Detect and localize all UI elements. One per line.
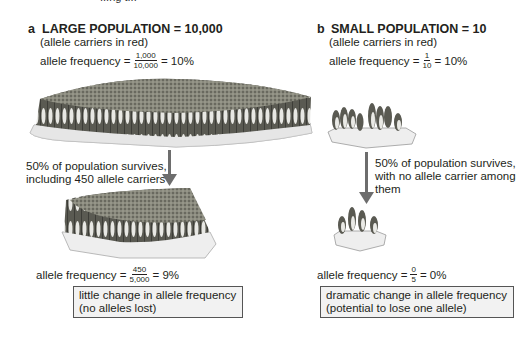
panel-a-letter: a: [28, 22, 42, 36]
denominator: 10: [422, 61, 431, 70]
panel-a-title: aLARGE POPULATION = 10,000: [28, 22, 223, 36]
penguin-group-small-illustration: [326, 100, 418, 150]
numerator: 0: [410, 265, 416, 275]
panel-a-heading: LARGE POPULATION = 10,000: [42, 22, 223, 36]
fraction: 1 10: [422, 51, 431, 70]
panel-b-final-frequency: allele frequency = 0 5 = 0%: [317, 265, 446, 284]
freq-label: allele frequency =: [317, 269, 407, 281]
survival-note-line: with no allele carrier among: [375, 170, 516, 183]
numerator: 1: [424, 51, 430, 61]
panel-a-final-frequency: allele frequency = 450 5,000 = 9%: [36, 265, 179, 284]
panel-a-conclusion-box: little change in allele frequency (no al…: [73, 286, 243, 318]
panel-b-letter: b: [317, 22, 331, 36]
penguin-colony-half-illustration: [60, 188, 220, 260]
panel-b-conclusion-box: dramatic change in allele frequency (pot…: [320, 286, 514, 318]
freq-result: = 0%: [420, 269, 447, 281]
fraction: 450 5,000: [129, 265, 149, 284]
penguin-group-tiny-illustration: [332, 205, 388, 253]
survival-note-line: 50% of population survives,: [375, 157, 516, 170]
survival-note-line: including 450 allele carriers: [26, 173, 167, 186]
conclusion-line: (potential to lose one allele): [326, 302, 507, 315]
fraction: 1,000 10,000: [133, 51, 157, 70]
denominator: 10,000: [133, 61, 157, 70]
freq-label: allele frequency =: [40, 55, 130, 67]
survival-note-line: 50% of population survives,: [26, 160, 167, 173]
denominator: 5,000: [129, 275, 149, 284]
conclusion-line: (no alleles lost): [79, 302, 236, 315]
arrow-down-icon: [357, 152, 377, 208]
conclusion-line: little change in allele frequency: [79, 289, 236, 302]
panel-b-title: bSMALL POPULATION = 10: [317, 22, 486, 36]
panel-b-initial-frequency: allele frequency = 1 10 = 10%: [329, 51, 467, 70]
top-cutoff-text: ...ng t...: [100, 0, 137, 3]
numerator: 1,000: [135, 51, 157, 61]
denominator: 5: [411, 275, 415, 284]
panel-b-heading: SMALL POPULATION = 10: [331, 22, 486, 36]
freq-result: = 9%: [153, 269, 180, 281]
panel-b-survival-note: 50% of population survives, with no alle…: [375, 157, 516, 196]
freq-label: allele frequency =: [329, 55, 419, 67]
freq-label: allele frequency =: [36, 269, 126, 281]
numerator: 450: [132, 265, 147, 275]
fraction: 0 5: [410, 265, 416, 284]
survival-note-line: them: [375, 183, 516, 196]
panel-a-subtitle: (allele carriers in red): [40, 36, 148, 48]
panel-a-initial-frequency: allele frequency = 1,000 10,000 = 10%: [40, 51, 194, 70]
panel-a-survival-note: 50% of population survives, including 45…: [26, 160, 167, 186]
conclusion-line: dramatic change in allele frequency: [326, 289, 507, 302]
penguin-colony-large-illustration: [26, 75, 316, 150]
panel-b-subtitle: (allele carriers in red): [329, 36, 437, 48]
freq-result: = 10%: [434, 55, 467, 67]
freq-result: = 10%: [161, 55, 194, 67]
